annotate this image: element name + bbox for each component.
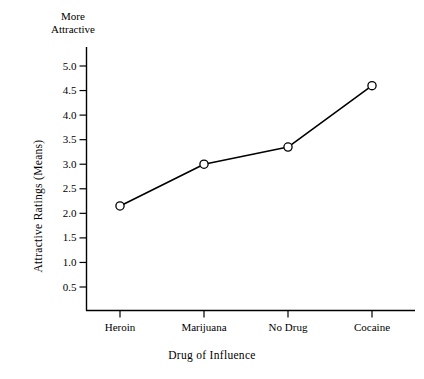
y-axis-tick-label: 3.0 bbox=[43, 159, 77, 170]
y-axis-tick-label: 3.5 bbox=[43, 134, 77, 145]
x-axis-tick-label: Marijuana bbox=[159, 321, 249, 333]
y-axis-tick-label: 0.5 bbox=[43, 282, 77, 293]
x-axis-tick-label: No Drug bbox=[243, 321, 333, 333]
y-axis-tick-label: 1.0 bbox=[43, 257, 77, 268]
axis-top-annotation: More Attractive bbox=[8, 10, 138, 36]
y-axis-title: Attractive Ratings (Means) bbox=[32, 106, 44, 306]
x-axis-ticks bbox=[120, 311, 372, 318]
line-chart-figure: More Attractive 0.51.01.52.02.53.03.54.0… bbox=[0, 0, 424, 379]
data-point-marker bbox=[284, 143, 292, 151]
y-axis-tick-label: 2.0 bbox=[43, 208, 77, 219]
data-point-marker bbox=[368, 82, 376, 90]
y-axis-tick-label: 1.5 bbox=[43, 232, 77, 243]
y-axis-tick-label: 4.0 bbox=[43, 110, 77, 121]
data-point-marker bbox=[200, 160, 208, 168]
data-point-marker bbox=[116, 202, 124, 210]
x-axis-tick-label: Heroin bbox=[75, 321, 165, 333]
x-axis-title: Drug of Influence bbox=[0, 349, 424, 361]
y-axis-ticks bbox=[80, 66, 87, 287]
axis-top-annotation-line1: More bbox=[8, 10, 138, 23]
y-axis-tick-label: 2.5 bbox=[43, 183, 77, 194]
x-axis-tick-label: Cocaine bbox=[327, 321, 417, 333]
axis-top-annotation-line2: Attractive bbox=[8, 23, 138, 36]
y-axis-tick-label: 4.5 bbox=[43, 85, 77, 96]
y-axis-tick-label: 5.0 bbox=[43, 61, 77, 72]
data-markers bbox=[116, 82, 376, 211]
data-line bbox=[120, 86, 372, 206]
axis-lines bbox=[86, 47, 415, 311]
